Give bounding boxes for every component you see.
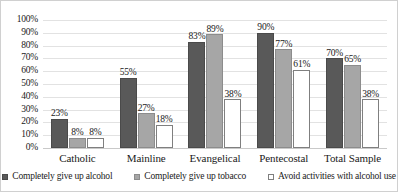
bar[interactable]: 70% xyxy=(326,58,343,148)
bar[interactable]: 18% xyxy=(156,125,173,148)
bar-group: 23%8%8% xyxy=(43,20,112,148)
bar-value-label: 38% xyxy=(225,90,242,100)
gridline xyxy=(43,148,387,149)
bar[interactable]: 65% xyxy=(344,65,361,148)
bar[interactable]: 38% xyxy=(362,99,379,148)
legend-item[interactable]: Avoid activities with alcohol use xyxy=(268,172,396,182)
bar[interactable]: 23% xyxy=(51,119,68,148)
bar-value-label: 23% xyxy=(51,109,68,119)
bar-slot: 83% xyxy=(188,20,205,148)
bar-group: 83%89%38% xyxy=(181,20,250,148)
bar-value-label: 8% xyxy=(89,128,101,138)
bar-value-label: 27% xyxy=(138,104,155,114)
bar[interactable]: 77% xyxy=(275,49,292,148)
y-axis-tick-label: 100% xyxy=(17,15,38,25)
bar-slot: 61% xyxy=(293,20,310,148)
bar-slot: 70% xyxy=(326,20,343,148)
bar[interactable]: 55% xyxy=(120,78,137,148)
bar-group: 90%77%61% xyxy=(249,20,318,148)
bar[interactable]: 27% xyxy=(138,113,155,148)
bar-value-label: 18% xyxy=(156,115,173,125)
bar-slot: 23% xyxy=(51,20,68,148)
y-axis-tick-label: 40% xyxy=(21,92,38,102)
legend-swatch-icon xyxy=(134,174,140,180)
y-axis-tick-label: 20% xyxy=(21,118,38,128)
y-axis-tick-label: 10% xyxy=(21,130,38,140)
bar-slot: 38% xyxy=(224,20,241,148)
y-axis-tick-label: 70% xyxy=(21,54,38,64)
bar-group: 70%65%38% xyxy=(318,20,387,148)
bar-value-label: 8% xyxy=(71,128,83,138)
chart-legend: Completely give up alcoholCompletely giv… xyxy=(1,169,397,185)
y-axis-tick-label: 30% xyxy=(21,105,38,115)
bar-value-label: 65% xyxy=(344,55,361,65)
bar[interactable]: 8% xyxy=(69,138,86,148)
x-axis-tick-label: Mainline xyxy=(112,150,181,166)
y-axis-tick-label: 0% xyxy=(26,143,38,153)
legend-label: Completely give up alcohol xyxy=(12,172,112,182)
bar-value-label: 90% xyxy=(257,23,274,33)
bar[interactable]: 38% xyxy=(224,99,241,148)
bar-slot: 8% xyxy=(87,20,104,148)
y-axis-tick-label: 50% xyxy=(21,79,38,89)
bar-slot: 77% xyxy=(275,20,292,148)
legend-swatch-icon xyxy=(2,174,8,180)
bar-slot: 55% xyxy=(120,20,137,148)
bar[interactable]: 61% xyxy=(293,70,310,148)
bar-slot: 89% xyxy=(206,20,223,148)
plot-area: 23%8%8%55%27%18%83%89%38%90%77%61%70%65%… xyxy=(43,20,387,148)
bar-slot: 8% xyxy=(69,20,86,148)
x-axis-tick-label: Total Sample xyxy=(318,150,387,166)
x-axis-tick-label: Evangelical xyxy=(181,150,250,166)
bar-slot: 38% xyxy=(362,20,379,148)
bar[interactable]: 90% xyxy=(257,33,274,148)
bar-value-label: 83% xyxy=(189,32,206,42)
y-axis-tick-label: 60% xyxy=(21,66,38,76)
bar-chart: 100%90%80%70%60%50%40%30%20%10%0% 23%8%8… xyxy=(0,0,398,192)
bar-value-label: 55% xyxy=(120,68,137,78)
legend-item[interactable]: Completely give up tobacco xyxy=(134,172,246,182)
bar-groups: 23%8%8%55%27%18%83%89%38%90%77%61%70%65%… xyxy=(43,20,387,148)
legend-label: Completely give up tobacco xyxy=(144,172,246,182)
x-axis-tick-label: Pentecostal xyxy=(249,150,318,166)
bar-value-label: 38% xyxy=(362,90,379,100)
bar-slot: 27% xyxy=(138,20,155,148)
y-axis: 100%90%80%70%60%50%40%30%20%10%0% xyxy=(1,20,41,148)
bar-slot: 18% xyxy=(156,20,173,148)
legend-label: Avoid activities with alcohol use xyxy=(278,172,396,182)
y-axis-tick-label: 80% xyxy=(21,41,38,51)
bar-value-label: 89% xyxy=(207,25,224,35)
bar-value-label: 61% xyxy=(293,60,310,70)
x-axis-tick-label: Catholic xyxy=(43,150,112,166)
legend-swatch-icon xyxy=(268,174,274,180)
bar-slot: 65% xyxy=(344,20,361,148)
bar-value-label: 70% xyxy=(326,49,343,59)
x-axis: CatholicMainlineEvangelicalPentecostalTo… xyxy=(43,150,387,166)
bar[interactable]: 8% xyxy=(87,138,104,148)
bar[interactable]: 89% xyxy=(206,34,223,148)
bar-slot: 90% xyxy=(257,20,274,148)
bar-group: 55%27%18% xyxy=(112,20,181,148)
legend-item[interactable]: Completely give up alcohol xyxy=(2,172,112,182)
bar-value-label: 77% xyxy=(275,40,292,50)
bar[interactable]: 83% xyxy=(188,42,205,148)
y-axis-tick-label: 90% xyxy=(21,28,38,38)
